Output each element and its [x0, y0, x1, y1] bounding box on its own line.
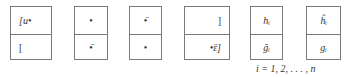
box-1-bottom-cell: [: [11, 34, 51, 60]
box-6-bottom-cell: gᵢ: [307, 34, 340, 60]
box-2-top-cell: •: [75, 7, 107, 35]
box-5-bottom-cell: ğᵢ: [251, 34, 282, 60]
diagram-box-5: hᵢ ğᵢ: [250, 6, 283, 60]
diagram-box-6: ĥᵢ gᵢ: [306, 6, 341, 60]
box-3-bottom-cell: •: [130, 34, 161, 60]
box-2-bottom-cell: •̈: [75, 34, 107, 60]
box-4-top-cell: ]: [185, 7, 229, 35]
diagram-box-3: •̈ •: [129, 6, 162, 60]
box-5-top-cell: hᵢ: [251, 7, 282, 35]
diagram-box-1: [u• [: [10, 6, 52, 60]
diagram-box-4: ] •̈ε]: [184, 6, 230, 60]
box-3-top-cell: •̈: [130, 7, 161, 35]
box-6-top-cell: ĥᵢ: [307, 7, 340, 35]
index-range-caption: i = 1, 2, . . . , n: [256, 63, 316, 74]
diagram-box-2: • •̈: [74, 6, 108, 60]
box-1-top-cell: [u•: [11, 7, 51, 35]
box-4-bottom-cell: •̈ε]: [185, 34, 229, 60]
